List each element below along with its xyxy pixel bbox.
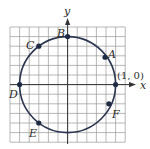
point-10 [113, 82, 118, 87]
y-axis-label: y [63, 5, 71, 18]
point-A [102, 55, 107, 60]
unit-circle-figure: x y A B C D E F (1, 0) [0, 0, 150, 149]
point-E [36, 120, 41, 125]
unit-circle-diagram: x y A B C D E F (1, 0) [0, 0, 150, 149]
label-D: D [8, 88, 18, 101]
y-axis-arrow-icon [65, 18, 70, 25]
point-D [17, 82, 22, 87]
point-B [65, 34, 70, 39]
label-A: A [107, 48, 116, 61]
label-B: B [56, 27, 65, 40]
label-intercept: (1, 0) [117, 70, 144, 81]
point-F [106, 101, 111, 106]
x-axis-arrow-icon [129, 82, 136, 87]
label-C: C [26, 39, 35, 52]
label-E: E [28, 127, 37, 140]
point-C [36, 44, 41, 49]
label-F: F [111, 108, 120, 121]
